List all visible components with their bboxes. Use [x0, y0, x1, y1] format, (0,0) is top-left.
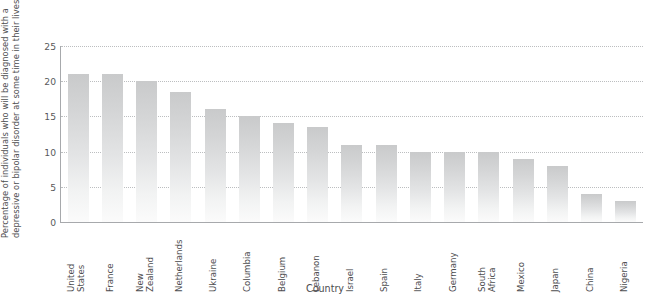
bar	[478, 152, 499, 222]
x-axis-title: Country	[0, 283, 650, 294]
bar-slot	[575, 46, 609, 222]
y-axis-title-line2: depressive or bipolar disorder at some t…	[11, 0, 22, 238]
bar-slot	[266, 46, 300, 222]
y-axis-tick-label: 25	[38, 41, 56, 52]
bar-slot	[506, 46, 540, 222]
y-axis-tick-label: 15	[38, 111, 56, 122]
bar	[273, 123, 294, 222]
bar	[444, 152, 465, 222]
bar	[410, 152, 431, 222]
y-axis-title: Percentage of individuals who will be di…	[0, 0, 34, 240]
bar	[170, 92, 191, 222]
y-axis-tick-label: 0	[38, 217, 56, 228]
bar-slot	[61, 46, 95, 222]
bar-slot	[369, 46, 403, 222]
bar-slot	[198, 46, 232, 222]
bar-slot	[335, 46, 369, 222]
bar-series	[61, 46, 643, 222]
y-axis-tick-label: 10	[38, 146, 56, 157]
bar	[68, 74, 89, 222]
bar-slot	[540, 46, 574, 222]
y-axis-tick-label: 20	[38, 76, 56, 87]
bar	[581, 194, 602, 222]
plot-area	[60, 46, 643, 223]
bar-slot	[609, 46, 643, 222]
bar	[307, 127, 328, 222]
bar-slot	[403, 46, 437, 222]
y-axis-ticks: 0510152025	[34, 0, 56, 300]
bar	[513, 159, 534, 222]
bar	[341, 145, 362, 222]
bar	[136, 81, 157, 222]
bar	[102, 74, 123, 222]
bar	[376, 145, 397, 222]
bar-chart: Percentage of individuals who will be di…	[0, 0, 650, 300]
bar-slot	[472, 46, 506, 222]
bar-slot	[95, 46, 129, 222]
bar-slot	[129, 46, 163, 222]
bar	[239, 116, 260, 222]
bar	[547, 166, 568, 222]
y-axis-title-line1: Percentage of individuals who will be di…	[0, 0, 11, 238]
bar-slot	[301, 46, 335, 222]
y-axis-tick-label: 5	[38, 181, 56, 192]
bar-slot	[232, 46, 266, 222]
bar	[205, 109, 226, 222]
bar-slot	[164, 46, 198, 222]
bar	[615, 201, 636, 222]
bar-slot	[438, 46, 472, 222]
